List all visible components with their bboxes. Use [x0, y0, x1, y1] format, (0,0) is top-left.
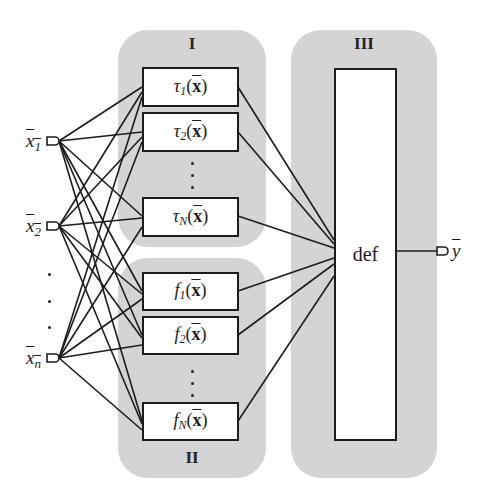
- ellipsis-dot: [48, 300, 51, 303]
- connection-lines: [0, 0, 487, 498]
- f-N-label: fN(x): [173, 410, 207, 433]
- f-2-label: f2(x): [174, 324, 206, 347]
- ellipsis-dot: [191, 370, 194, 373]
- tau-2-box: τ2(x): [142, 112, 239, 152]
- f-1-label: f1(x): [174, 280, 206, 303]
- ellipsis-dot: [48, 273, 51, 276]
- f-1-box: f1(x): [142, 272, 239, 311]
- tau-N-label: τN(x): [173, 206, 208, 229]
- input-xn-label: xn: [26, 347, 41, 372]
- input-x1-label: x1: [26, 130, 41, 155]
- ellipsis-dot: [191, 382, 194, 385]
- tau-N-box: τN(x): [142, 197, 239, 237]
- input-x2-label: x2: [26, 215, 41, 240]
- ellipsis-dot: [191, 394, 194, 397]
- ellipsis-dot: [191, 186, 194, 189]
- def-box: def: [334, 68, 397, 441]
- ellipsis-dot: [191, 162, 194, 165]
- f-2-box: f2(x): [142, 316, 239, 355]
- output-y-label: y: [452, 240, 460, 262]
- def-label: def: [353, 243, 379, 266]
- ellipsis-dot: [48, 326, 51, 329]
- f-N-box: fN(x): [142, 402, 239, 441]
- diagram-canvas: I II III: [0, 0, 487, 498]
- tau-2-label: τ2(x): [174, 121, 207, 144]
- tau-1-label: τ1(x): [174, 76, 207, 99]
- tau-1-box: τ1(x): [142, 67, 239, 107]
- ellipsis-dot: [191, 174, 194, 177]
